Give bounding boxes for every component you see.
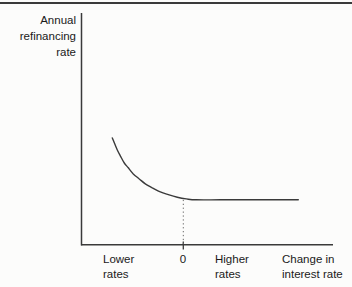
x-tick-label-higher-rates: Higher rates — [215, 252, 249, 282]
x-tick-label-zero: 0 — [180, 252, 186, 267]
refinancing-curve — [112, 138, 298, 200]
y-axis-title: Annual refinancing rate — [0, 12, 76, 61]
book-figure-page: Annual refinancing rate Lower rates 0 Hi… — [0, 0, 352, 287]
x-axis-title: Change in interest rate — [282, 252, 343, 282]
x-tick-label-lower-rates: Lower rates — [103, 252, 134, 282]
